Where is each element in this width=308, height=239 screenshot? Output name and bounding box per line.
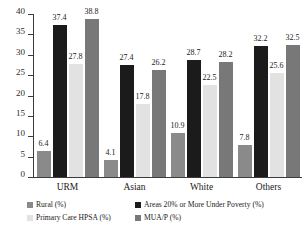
legend-label: Primary Care HPSA (%) <box>36 213 111 222</box>
bar-group: 4.127.417.826.2 <box>101 14 168 177</box>
legend-swatch <box>135 202 141 208</box>
legend-item[interactable]: Rural (%) <box>27 199 135 210</box>
y-axis-tick-mark <box>28 14 33 15</box>
bar-value-label: 28.2 <box>219 51 233 59</box>
legend-swatch <box>27 202 33 208</box>
bar[interactable]: 27.4 <box>120 65 134 177</box>
bar-groups: 6.437.427.838.84.127.417.826.210.928.722… <box>34 14 302 177</box>
x-axis-category-label: Asian <box>101 181 168 195</box>
legend-label: Areas 20% or More Under Poverty (%) <box>144 200 264 209</box>
x-axis-category-labels: URMAsianWhiteOthers <box>34 181 302 195</box>
bar[interactable]: 17.8 <box>136 104 150 177</box>
bar-value-label: 22.5 <box>203 74 217 82</box>
bar[interactable]: 6.4 <box>37 151 51 177</box>
bar-value-label: 28.7 <box>187 49 201 57</box>
bar[interactable]: 25.6 <box>270 73 284 177</box>
y-axis-tick-mark <box>28 55 33 56</box>
y-axis-tick-mark <box>28 116 33 117</box>
legend-swatch <box>135 215 141 221</box>
bar-slot: 26.2 <box>152 14 166 177</box>
y-axis-ticks: 0510152025303540 <box>0 14 33 178</box>
bar-slot: 7.8 <box>238 14 252 177</box>
bar-slot: 28.7 <box>187 14 201 177</box>
y-axis-tick-mark <box>28 136 33 137</box>
bar[interactable]: 7.8 <box>238 145 252 177</box>
bar-value-label: 27.8 <box>69 53 83 61</box>
bar-slot: 10.9 <box>171 14 185 177</box>
y-axis-tick-label: 20 <box>16 89 25 98</box>
bar-value-label: 4.1 <box>106 149 116 157</box>
x-axis-line <box>33 177 302 178</box>
legend-item[interactable]: Primary Care HPSA (%) <box>27 212 135 223</box>
bar-value-label: 26.2 <box>152 59 166 67</box>
grouped-bar-chart: 0510152025303540 6.437.427.838.84.127.41… <box>0 0 308 239</box>
y-axis-tick-mark <box>28 157 33 158</box>
bar-slot: 32.5 <box>286 14 300 177</box>
bar[interactable]: 26.2 <box>152 70 166 177</box>
bar-slot: 27.8 <box>69 14 83 177</box>
bar-slot: 37.4 <box>53 14 67 177</box>
legend-label: Rural (%) <box>36 200 66 209</box>
bar-value-label: 25.6 <box>270 62 284 70</box>
bar-group: 7.832.225.632.5 <box>235 14 302 177</box>
bar-value-label: 37.4 <box>53 14 67 22</box>
bar-group: 6.437.427.838.8 <box>34 14 101 177</box>
legend-label: MUA/P (%) <box>144 213 181 222</box>
bar-value-label: 6.4 <box>39 140 49 148</box>
bar-slot: 6.4 <box>37 14 51 177</box>
bar[interactable]: 32.2 <box>254 46 268 177</box>
y-axis-tick-label: 10 <box>16 129 25 138</box>
chart-legend: Rural (%)Areas 20% or More Under Poverty… <box>27 199 302 223</box>
bar[interactable]: 32.5 <box>286 45 300 177</box>
bar[interactable]: 38.8 <box>85 19 99 177</box>
y-axis-tick-label: 15 <box>16 109 25 118</box>
y-axis-tick-label: 30 <box>16 48 25 57</box>
bar[interactable]: 27.8 <box>69 64 83 177</box>
y-axis-tick-mark <box>28 96 33 97</box>
bar-slot: 27.4 <box>120 14 134 177</box>
y-axis-tick-mark <box>28 177 33 178</box>
x-axis-category-label: White <box>168 181 235 195</box>
bar-value-label: 10.9 <box>171 122 185 130</box>
legend-item[interactable]: Areas 20% or More Under Poverty (%) <box>135 199 302 210</box>
bar-value-label: 27.4 <box>120 54 134 62</box>
y-axis-tick-label: 25 <box>16 68 25 77</box>
bar-value-label: 32.5 <box>286 34 300 42</box>
bar[interactable]: 10.9 <box>171 133 185 177</box>
bar-slot: 25.6 <box>270 14 284 177</box>
bar-slot: 4.1 <box>104 14 118 177</box>
bar-slot: 22.5 <box>203 14 217 177</box>
bar[interactable]: 22.5 <box>203 85 217 177</box>
bar-group: 10.928.722.528.2 <box>168 14 235 177</box>
bar-slot: 32.2 <box>254 14 268 177</box>
y-axis-tick-label: 40 <box>16 7 25 16</box>
bar[interactable]: 37.4 <box>53 25 67 177</box>
x-axis-category-label: Others <box>235 181 302 195</box>
bar[interactable]: 28.7 <box>187 60 201 177</box>
bar-value-label: 17.8 <box>136 93 150 101</box>
legend-item[interactable]: MUA/P (%) <box>135 212 302 223</box>
bar-value-label: 7.8 <box>240 134 250 142</box>
y-axis-tick-mark <box>28 75 33 76</box>
x-axis-category-label: URM <box>34 181 101 195</box>
bar[interactable]: 4.1 <box>104 160 118 177</box>
bar-slot: 38.8 <box>85 14 99 177</box>
legend-swatch <box>27 215 33 221</box>
bar-slot: 28.2 <box>219 14 233 177</box>
bar-value-label: 38.8 <box>85 8 99 16</box>
y-axis-tick-label: 5 <box>21 150 26 159</box>
y-axis-tick-label: 35 <box>16 27 25 36</box>
y-axis-tick-label: 0 <box>21 170 26 179</box>
bar-value-label: 32.2 <box>254 35 268 43</box>
y-axis-tick-mark <box>28 34 33 35</box>
bar[interactable]: 28.2 <box>219 62 233 177</box>
bar-slot: 17.8 <box>136 14 150 177</box>
